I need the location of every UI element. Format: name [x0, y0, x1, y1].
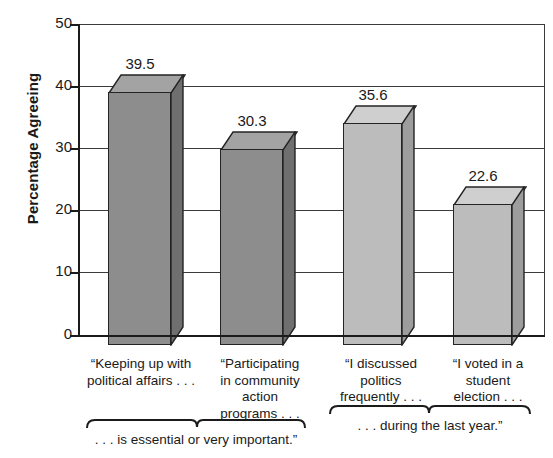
bar-4-side-face: [511, 186, 527, 346]
bar-2-value-label: 30.3: [212, 112, 292, 129]
ytick-label-40: 40: [38, 76, 72, 93]
bar-4-value-label: 22.6: [443, 167, 523, 184]
category-label-2-line-2: in community: [205, 373, 315, 390]
ytick-label-10: 10: [38, 262, 72, 279]
category-label-1: “Keeping up with political affairs . . .: [78, 356, 204, 389]
ytick-label-50: 50: [38, 14, 72, 31]
bar-1-side-face: [170, 74, 186, 346]
category-label-2-line-3: action: [205, 389, 315, 406]
bracket-left-caption: . . . is essential or very important.”: [78, 432, 314, 447]
plot-right-edge: [544, 24, 545, 335]
ytick-label-30: 30: [38, 138, 72, 155]
ytick-label-0: 0: [38, 325, 72, 342]
bar-3-side-face: [401, 105, 417, 346]
gridline-50: [78, 24, 545, 25]
bracket-right-caption: . . . during the last year.”: [325, 418, 535, 433]
category-label-3-line-2: politics: [326, 373, 436, 390]
bar-3-front-face: [343, 123, 402, 345]
category-label-3-line-1: “I discussed: [326, 356, 436, 373]
bar-2-front-face: [220, 149, 283, 345]
category-label-1-line-1: “Keeping up with: [78, 356, 204, 373]
category-label-2: “Participating in community action progr…: [205, 356, 315, 422]
bar-2-side-face: [282, 131, 298, 346]
y-axis-line: [78, 24, 80, 335]
category-label-4: “I voted in a student election . . .: [433, 356, 543, 406]
category-label-1-line-2: political affairs . . .: [78, 373, 204, 390]
category-label-4-line-1: “I voted in a: [433, 356, 543, 373]
category-label-2-line-1: “Participating: [205, 356, 315, 373]
bar-1-value-label: 39.5: [100, 55, 180, 72]
bracket-right-icon: [327, 400, 533, 416]
bar-4-front-face: [453, 204, 512, 345]
bracket-left-icon: [84, 414, 308, 430]
bar-chart: Percentage Agreeing 50 40 30 20 10 0 39.…: [0, 0, 553, 458]
ytick-label-20: 20: [38, 200, 72, 217]
bar-1-front-face: [108, 92, 171, 345]
bar-3-value-label: 35.6: [333, 86, 413, 103]
category-label-4-line-2: student: [433, 373, 543, 390]
category-label-3: “I discussed politics frequently . . .: [326, 356, 436, 406]
x-axis-line: [78, 335, 545, 337]
